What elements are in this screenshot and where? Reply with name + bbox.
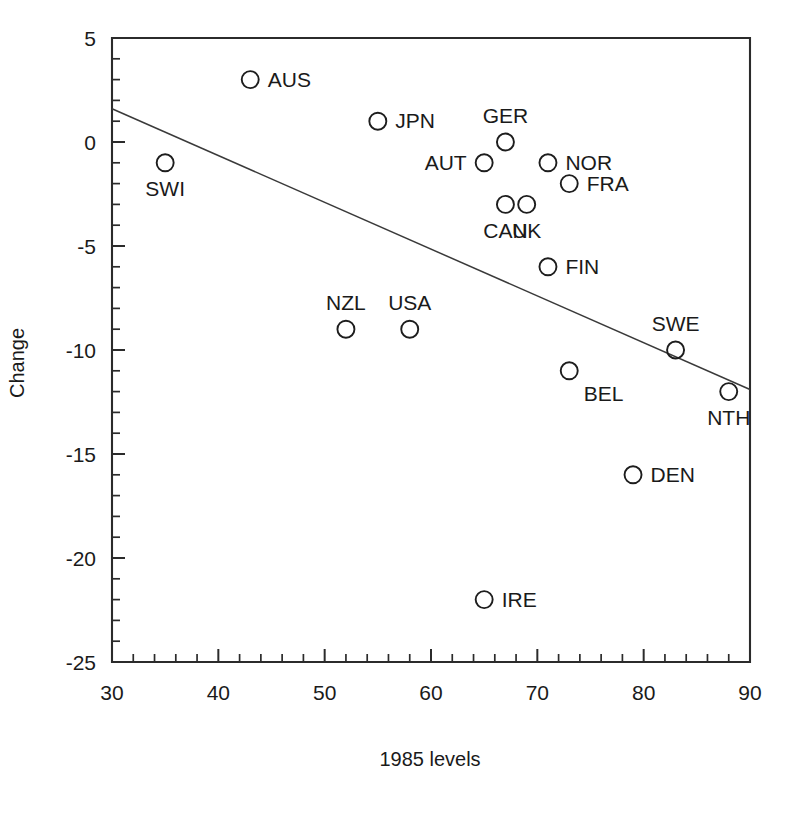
- x-axis-title: 1985 levels: [379, 748, 480, 770]
- data-point-label-swe: SWE: [652, 312, 700, 335]
- y-axis-ticks: [112, 38, 125, 662]
- data-point-marker-ire: [476, 591, 493, 608]
- data-point-marker-aus: [242, 71, 259, 88]
- data-point-label-swi: SWI: [145, 177, 185, 200]
- data-point-marker-aut: [476, 154, 493, 171]
- data-point-label-fin: FIN: [565, 255, 599, 278]
- data-point-label-nth: NTH: [707, 406, 750, 429]
- data-point-label-uk: UK: [512, 219, 541, 242]
- y-tick-label: -10: [66, 339, 96, 362]
- data-point-marker-fra: [561, 175, 578, 192]
- data-point-marker-ger: [497, 134, 514, 151]
- y-tick-label: -25: [66, 651, 96, 674]
- data-point-label-den: DEN: [651, 463, 695, 486]
- data-point-label-nor: NOR: [565, 151, 612, 174]
- x-tick-label: 80: [632, 681, 655, 704]
- data-point-label-bel: BEL: [584, 382, 624, 405]
- y-tick-label: 5: [84, 27, 96, 50]
- data-point-marker-usa: [401, 321, 418, 338]
- data-point-marker-den: [625, 466, 642, 483]
- data-point-labels: AUSJPNSWIGERAUTNORFRACANUKFINNZLUSASWEBE…: [145, 68, 750, 611]
- data-point-label-ger: GER: [483, 104, 529, 127]
- data-point-marker-nzl: [337, 321, 354, 338]
- x-tick-label: 50: [313, 681, 336, 704]
- data-point-label-nzl: NZL: [326, 291, 366, 314]
- x-axis-ticks: [112, 649, 750, 662]
- x-axis-tick-labels: 30405060708090: [100, 681, 761, 704]
- x-tick-label: 60: [419, 681, 442, 704]
- y-tick-label: -5: [77, 235, 96, 258]
- data-point-marker-can: [497, 196, 514, 213]
- y-tick-label: 0: [84, 131, 96, 154]
- y-tick-label: -20: [66, 547, 96, 570]
- data-point-label-aus: AUS: [268, 68, 311, 91]
- data-point-label-usa: USA: [388, 291, 431, 314]
- data-point-label-fra: FRA: [587, 172, 629, 195]
- data-point-label-aut: AUT: [425, 151, 467, 174]
- data-point-marker-fin: [539, 258, 556, 275]
- data-point-marker-uk: [518, 196, 535, 213]
- x-tick-label: 40: [207, 681, 230, 704]
- y-axis-title: Change: [6, 328, 28, 398]
- data-point-marker-swi: [157, 154, 174, 171]
- plot-canvas: 30405060708090 50-5-10-15-20-25 AUSJPNSW…: [0, 0, 785, 813]
- scatter-plot-figure: 30405060708090 50-5-10-15-20-25 AUSJPNSW…: [0, 0, 785, 813]
- data-point-label-jpn: JPN: [395, 109, 435, 132]
- y-axis-tick-labels: 50-5-10-15-20-25: [66, 27, 96, 674]
- data-point-marker-jpn: [369, 113, 386, 130]
- data-point-marker-nth: [720, 383, 737, 400]
- x-tick-label: 90: [738, 681, 761, 704]
- x-tick-label: 30: [100, 681, 123, 704]
- y-tick-label: -15: [66, 443, 96, 466]
- data-point-marker-nor: [539, 154, 556, 171]
- x-tick-label: 70: [526, 681, 549, 704]
- data-point-marker-bel: [561, 362, 578, 379]
- data-point-label-ire: IRE: [502, 588, 537, 611]
